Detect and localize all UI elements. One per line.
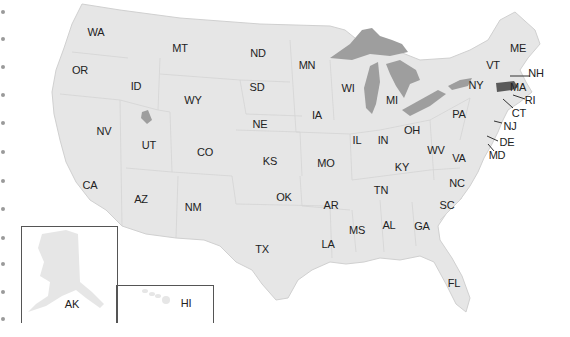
edge-marker-icon	[1, 65, 5, 69]
state-label-ar[interactable]: AR	[324, 199, 339, 211]
edge-marker-icon	[1, 290, 5, 294]
state-label-wv[interactable]: WV	[427, 144, 444, 156]
state-label-id[interactable]: ID	[131, 80, 142, 92]
state-label-ok[interactable]: OK	[276, 191, 292, 203]
hawaii-inset	[116, 285, 214, 323]
state-label-tx[interactable]: TX	[255, 243, 269, 255]
state-label-nm[interactable]: NM	[185, 201, 202, 213]
state-label-vt[interactable]: VT	[486, 59, 500, 71]
state-label-sc[interactable]: SC	[440, 199, 455, 211]
state-label-il[interactable]: IL	[353, 134, 362, 146]
state-label-wy[interactable]: WY	[184, 94, 201, 106]
edge-marker-icon	[1, 37, 5, 41]
state-label-mo[interactable]: MO	[317, 157, 334, 169]
contiguous-us-shape	[52, 4, 540, 312]
state-label-nj[interactable]: NJ	[503, 120, 516, 132]
state-label-wa[interactable]: WA	[88, 26, 105, 38]
state-label-hi[interactable]: HI	[181, 297, 192, 309]
state-label-ne[interactable]: NE	[253, 118, 268, 130]
state-label-tn[interactable]: TN	[374, 184, 388, 196]
state-label-ri[interactable]: RI	[525, 94, 536, 106]
edge-marker-icon	[1, 207, 5, 211]
state-label-nc[interactable]: NC	[449, 177, 465, 189]
state-label-oh[interactable]: OH	[404, 124, 420, 136]
state-label-mn[interactable]: MN	[299, 59, 316, 71]
edge-marker-icon	[1, 262, 5, 266]
state-label-la[interactable]: LA	[321, 238, 334, 250]
state-label-ak[interactable]: AK	[65, 298, 79, 310]
state-label-ga[interactable]: GA	[414, 220, 430, 232]
state-label-co[interactable]: CO	[197, 146, 213, 158]
edge-marker-icon	[1, 150, 5, 154]
state-label-or[interactable]: OR	[72, 64, 88, 76]
state-label-ct[interactable]: CT	[512, 107, 526, 119]
edge-marker-icon	[1, 121, 5, 125]
state-label-fl[interactable]: FL	[448, 277, 460, 289]
state-label-md[interactable]: MD	[489, 149, 506, 161]
state-label-wi[interactable]: WI	[341, 82, 354, 94]
state-label-al[interactable]: AL	[382, 219, 395, 231]
state-label-sd[interactable]: SD	[250, 81, 265, 93]
edge-marker-icon	[1, 317, 5, 321]
state-label-az[interactable]: AZ	[134, 193, 148, 205]
state-label-ut[interactable]: UT	[142, 139, 156, 151]
state-label-ks[interactable]: KS	[263, 155, 277, 167]
edge-marker-icon	[1, 236, 5, 240]
state-label-va[interactable]: VA	[452, 152, 465, 164]
state-label-in[interactable]: IN	[378, 134, 389, 146]
state-label-ny[interactable]: NY	[469, 79, 484, 91]
state-label-mi[interactable]: MI	[386, 94, 398, 106]
state-label-mt[interactable]: MT	[172, 42, 187, 54]
state-label-ky[interactable]: KY	[395, 161, 409, 173]
state-label-pa[interactable]: PA	[452, 108, 465, 120]
state-label-nh[interactable]: NH	[528, 67, 544, 79]
state-label-ia[interactable]: IA	[312, 109, 322, 121]
state-label-ma[interactable]: MA	[510, 81, 526, 93]
state-label-nv[interactable]: NV	[97, 125, 112, 137]
state-label-nd[interactable]: ND	[250, 47, 266, 59]
edge-marker-icon	[1, 10, 5, 14]
state-label-ca[interactable]: CA	[83, 179, 98, 191]
edge-marker-icon	[1, 93, 5, 97]
state-label-me[interactable]: ME	[510, 42, 526, 54]
state-label-ms[interactable]: MS	[349, 224, 365, 236]
state-label-de[interactable]: DE	[500, 136, 515, 148]
edge-marker-icon	[1, 179, 5, 183]
